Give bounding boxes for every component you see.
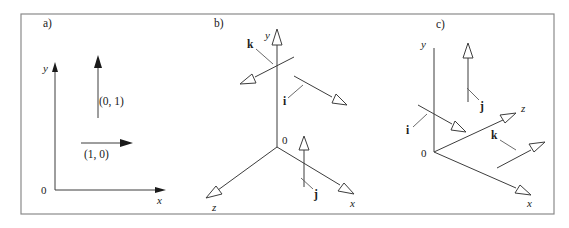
panel-c-origin-label: 0 xyxy=(421,147,427,159)
panel-b-vector-j-leader xyxy=(301,178,313,189)
panel-a-x-axis-arrowhead xyxy=(155,187,166,193)
panel-a-y-axis-arrowhead xyxy=(52,62,58,72)
panel-c-vector-j-label: j xyxy=(479,100,484,113)
panel-a-y-axis-label: y xyxy=(42,62,48,74)
panel-b-vector-i-arrowhead xyxy=(332,94,347,105)
panel-c-x-axis xyxy=(434,152,516,188)
panel-b-x-axis-label: x xyxy=(349,197,355,209)
panel-c-z-axis-arrowhead xyxy=(500,113,516,123)
panel-b-z-axis-label: z xyxy=(211,201,217,213)
panel-b-vector-j-arrowhead xyxy=(299,136,309,150)
panel-b-x-axis-arrowhead xyxy=(338,183,354,194)
panel-c-y-axis-label: y xyxy=(420,38,426,50)
panel-b: b) y z x 0 k i xyxy=(206,17,355,213)
panel-a: a) y x 0 (0, 1) (1, 0) xyxy=(41,17,166,206)
panel-b-y-axis-label: y xyxy=(264,29,270,41)
panel-a-label: a) xyxy=(43,17,52,30)
panel-c-vector-i-leader xyxy=(413,114,427,127)
panel-a-vector-e2-label: (0, 1) xyxy=(99,95,124,108)
panel-b-vector-k-label: k xyxy=(247,38,254,50)
figure-frame xyxy=(21,14,554,214)
panel-c-vector-k-leader xyxy=(500,140,516,150)
panel-a-vector-e1-label: (1, 0) xyxy=(84,148,109,161)
panel-b-vector-k-leader xyxy=(256,49,273,64)
panel-c-label: c) xyxy=(436,18,445,31)
panel-c-vector-j-leader xyxy=(467,88,479,100)
panel-c-z-axis-label: z xyxy=(520,102,526,114)
panel-b-vector-i-leader xyxy=(288,85,303,98)
panel-c-vector-k-arrowhead xyxy=(529,142,545,152)
panel-c-x-axis-arrowhead xyxy=(515,185,531,195)
panel-c-vector-k xyxy=(497,150,531,168)
panel-c-x-axis-label: x xyxy=(526,197,532,209)
panel-c: c) y z x 0 j i xyxy=(406,18,545,209)
panel-a-origin-label: 0 xyxy=(41,184,47,196)
panel-b-x-axis xyxy=(277,147,340,185)
panel-c-vector-j-arrowhead xyxy=(463,43,473,58)
panel-b-z-axis-arrowhead xyxy=(206,186,222,198)
panel-b-vector-k-arrowhead xyxy=(240,74,256,84)
panel-b-origin-label: 0 xyxy=(282,134,288,146)
panel-c-vector-i xyxy=(418,105,452,124)
panel-b-z-axis xyxy=(218,147,277,190)
panel-a-vector-e2-arrowhead xyxy=(94,55,102,68)
panel-a-vector-e1-arrowhead xyxy=(120,139,133,147)
panel-a-x-axis-label: x xyxy=(156,194,162,206)
panel-c-vector-i-arrowhead xyxy=(451,121,466,132)
panel-b-vector-i-label: i xyxy=(283,95,287,107)
panel-b-vector-i xyxy=(294,76,332,97)
panel-c-vector-k-label: k xyxy=(491,129,498,141)
panel-b-y-axis-arrowhead xyxy=(272,29,282,45)
panel-b-vector-k xyxy=(255,57,294,77)
panel-c-vector-i-label: i xyxy=(406,124,410,136)
panel-b-vector-j-label: j xyxy=(313,188,318,201)
panel-b-label: b) xyxy=(214,17,224,30)
vector-basis-figure: a) y x 0 (0, 1) (1, 0) b) xyxy=(0,0,569,228)
